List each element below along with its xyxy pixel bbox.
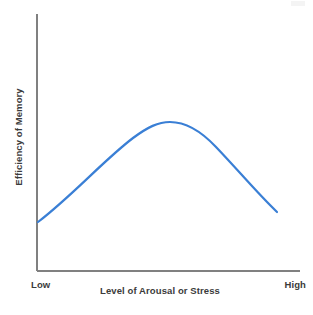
chart-container: Efficiency of Memory Level of Arousal or… — [0, 0, 313, 315]
chart-plot-area — [0, 0, 313, 315]
x-axis-tick-high: High — [285, 279, 307, 290]
y-axis-label: Efficiency of Memory — [13, 88, 24, 185]
memory-efficiency-curve — [38, 122, 277, 222]
x-axis-label: Level of Arousal or Stress — [100, 285, 220, 296]
x-axis-tick-low: Low — [31, 279, 50, 290]
